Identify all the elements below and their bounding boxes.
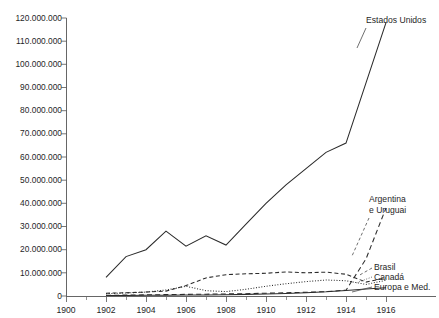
series-label-canada: Canadá — [374, 272, 404, 282]
x-tick-label-1908: 1908 — [216, 305, 235, 315]
y-tick-label-80000000: 80.000.000 — [20, 105, 62, 115]
x-tick-label-1906: 1906 — [176, 305, 195, 315]
y-tick-label-110000000: 110.000.000 — [16, 36, 62, 46]
x-axis — [66, 297, 436, 303]
y-tick-label-30000000: 30.000.000 — [20, 221, 62, 231]
x-tick-label-1916: 1916 — [376, 305, 395, 315]
series-label-europa-med: Europa e Med. — [374, 282, 430, 292]
series-labels: Estados Unidos Argentina e Uruguai Brasi… — [366, 15, 430, 292]
series-line-argentina-uruguai — [106, 208, 386, 295]
series-label-estados-unidos: Estados Unidos — [366, 15, 426, 25]
y-tick-label-100000000: 100.000.000 — [15, 59, 62, 69]
y-axis-labels: 120.000.000 110.000.000 100.000.000 90.0… — [15, 13, 62, 301]
series-line-estados-unidos — [106, 23, 386, 278]
chart-container: 120.000.000 110.000.000 100.000.000 90.0… — [0, 0, 439, 318]
x-tick-label-1902: 1902 — [96, 305, 115, 315]
series-label-argentina-line2: e Uruguai — [369, 205, 406, 215]
line-chart: 120.000.000 110.000.000 100.000.000 90.0… — [0, 0, 439, 318]
series-layer — [106, 23, 386, 296]
x-tick-label-1910: 1910 — [256, 305, 275, 315]
x-tick-label-1904: 1904 — [136, 305, 155, 315]
series-label-argentina-line1: Argentina — [369, 194, 406, 204]
y-tick-label-120000000: 120.000.000 — [15, 13, 62, 23]
y-tick-label-40000000: 40.000.000 — [20, 198, 62, 208]
x-tick-label-1914: 1914 — [336, 305, 355, 315]
series-leader-lines — [352, 28, 372, 292]
y-tick-label-10000000: 10.000.000 — [20, 268, 62, 278]
series-label-brasil: Brasil — [374, 262, 396, 272]
x-tick-label-1912: 1912 — [296, 305, 315, 315]
y-tick-label-60000000: 60.000.000 — [20, 152, 62, 162]
y-tick-label-70000000: 70.000.000 — [20, 128, 62, 138]
x-axis-labels: 1900 1902 1904 1906 1908 1910 1912 1914 … — [56, 305, 395, 315]
y-tick-label-90000000: 90.000.000 — [20, 82, 62, 92]
y-tick-label-50000000: 50.000.000 — [20, 175, 62, 185]
y-tick-label-20000000: 20.000.000 — [20, 244, 62, 254]
x-tick-label-1900: 1900 — [56, 305, 75, 315]
